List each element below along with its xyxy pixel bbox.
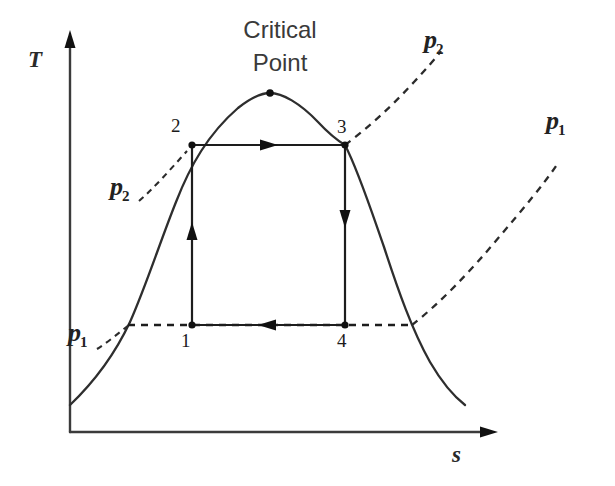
critical-point-marker	[266, 89, 274, 97]
critical-point-label: Critical Point	[225, 18, 335, 84]
isobar-p2-upper-label: p2	[424, 27, 444, 57]
state-point-3-marker	[341, 141, 348, 148]
state-point-1-label: 1	[181, 331, 191, 350]
isobar-p1-lower-left-subscript: 1	[80, 334, 88, 350]
process-4-1-arrow-icon	[258, 320, 276, 331]
state-point-2-marker	[188, 141, 195, 148]
process-1-2-arrow-icon	[187, 222, 198, 240]
critical-point-label-line1: Critical	[225, 18, 335, 42]
isobar-p2-superheat-curve	[345, 51, 441, 145]
isobar-p1-superheat-curve	[412, 166, 556, 325]
isobar-p1-leader-line	[97, 325, 129, 349]
state-point-1-marker	[188, 321, 195, 328]
process-2-3-arrow-icon	[260, 140, 278, 151]
process-3-4-arrow-icon	[340, 210, 351, 228]
isobar-p2-upper-subscript: 2	[436, 41, 444, 57]
isobar-p1-right-label: p1	[546, 108, 566, 138]
isobar-p1-lower-left-label: p1	[68, 320, 88, 350]
temperature-axis-label: T	[28, 48, 42, 71]
state-point-3-label: 3	[337, 117, 347, 136]
isobar-p2-left-label: p2	[110, 174, 130, 204]
saturation-dome-curve	[70, 93, 465, 405]
critical-point-label-line2: Point	[225, 51, 335, 75]
entropy-axis-arrow-icon	[480, 427, 498, 438]
isobar-p1-right-subscript: 1	[558, 122, 566, 138]
ts-diagram-figure: T s Critical Point 2 3 1 4 p2 p1 p2 p1	[0, 0, 615, 486]
entropy-axis-label: s	[452, 443, 461, 466]
state-point-4-marker	[341, 321, 348, 328]
state-point-2-label: 2	[171, 116, 181, 135]
temperature-axis-arrow-icon	[65, 30, 76, 48]
isobar-p2-left-subscript: 2	[122, 188, 130, 204]
state-point-4-label: 4	[337, 331, 347, 350]
